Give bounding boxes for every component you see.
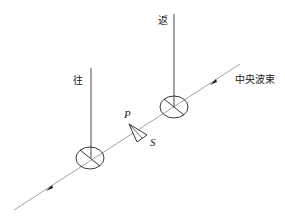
diagram-canvas: 往 返 中央波束 P S	[0, 0, 285, 223]
return-label: 返	[158, 16, 168, 26]
point-p-label: P	[124, 109, 131, 120]
diagram-svg	[0, 0, 285, 223]
central-beam-label: 中央波束	[235, 75, 275, 85]
arrow-mark-lower	[46, 185, 53, 191]
outgoing-label: 往	[73, 76, 83, 86]
outgoing-antenna-cross	[80, 150, 100, 166]
arrow-mark-upper	[210, 79, 217, 85]
point-s-label: S	[150, 137, 156, 148]
central-beam-line	[14, 64, 240, 210]
